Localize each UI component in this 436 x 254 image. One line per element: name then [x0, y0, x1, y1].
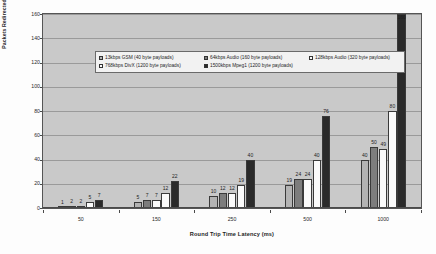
gridline	[43, 87, 421, 88]
x-tick-label: 150	[152, 216, 161, 222]
bar-value-label: 7	[146, 193, 149, 198]
gridline	[43, 135, 421, 136]
bar	[219, 193, 228, 208]
gridline	[43, 38, 421, 39]
bar-value-label: 160	[397, 15, 405, 20]
bar-value-label: 19	[238, 178, 244, 183]
x-tick-label: 50	[78, 216, 84, 222]
bar-value-label: 24	[305, 172, 311, 177]
x-tick-mark	[43, 210, 44, 213]
y-tick-label: 60	[18, 133, 40, 138]
bar-value-label: 2	[79, 199, 82, 204]
gridline	[43, 14, 421, 15]
bar-value-label: 7	[98, 193, 101, 198]
x-tick-mark	[119, 210, 120, 213]
bar	[237, 185, 246, 208]
bar-value-label: 50	[371, 140, 377, 145]
bar-value-label: 5	[89, 195, 92, 200]
bar	[322, 116, 331, 208]
bar	[228, 193, 237, 208]
bar	[246, 160, 255, 209]
legend-swatch-icon	[309, 56, 313, 60]
legend-swatch-icon	[204, 64, 208, 68]
bar-value-label: 12	[229, 186, 235, 191]
y-tick-label: 160	[18, 12, 40, 17]
x-tick-mark	[194, 210, 195, 213]
bar-value-label: 19	[286, 178, 292, 183]
x-axis-title: Round Trip Time Latency (ms)	[42, 231, 422, 237]
x-tick-mark	[421, 210, 422, 213]
bar	[361, 160, 370, 209]
plot-area: 1225757712221012121940192424407640504980…	[42, 13, 422, 209]
bar-value-label: 40	[314, 153, 320, 158]
bar-value-label: 22	[172, 174, 178, 179]
x-tick-label: 1000	[377, 216, 389, 222]
bar	[294, 179, 303, 208]
legend-item-2: 128kbps Audio (320 byte payloads)	[309, 56, 390, 61]
bar-value-label: 10	[211, 189, 217, 194]
legend-label-4: 1500kbps Mpeg1 (1200 byte payloads)	[210, 64, 293, 69]
bar-value-label: 24	[296, 172, 302, 177]
bar-value-label: 7	[155, 193, 158, 198]
legend-row: 13kbps GSM (40 byte payloads) 64kbps Aud…	[99, 54, 401, 62]
bar-value-label: 12	[220, 186, 226, 191]
legend-label-1: 64kbps Audio (160 byte payloads)	[210, 56, 282, 61]
bar	[161, 193, 170, 208]
legend-swatch-icon	[204, 56, 208, 60]
bar	[397, 14, 406, 208]
x-tick-mark	[345, 210, 346, 213]
chart-legend: 13kbps GSM (40 byte payloads) 64kbps Aud…	[95, 51, 405, 73]
x-tick-label: 250	[228, 216, 237, 222]
bar	[313, 160, 322, 209]
axis-baseline	[43, 207, 421, 208]
y-tick-label: 20	[18, 181, 40, 186]
bar	[303, 179, 312, 208]
x-axis-ticks: 501502505001000	[42, 210, 422, 226]
bar	[388, 111, 397, 208]
y-tick-label: 140	[18, 36, 40, 41]
plot-inner: 1225757712221012121940192424407640504980…	[43, 14, 421, 208]
bar-value-label: 76	[323, 109, 329, 114]
bar	[379, 149, 388, 208]
legend-item-3: 768kbps DivX (1200 byte payloads)	[99, 64, 204, 69]
legend-item-4: 1500kbps Mpeg1 (1200 byte payloads)	[204, 64, 293, 69]
legend-label-3: 768kbps DivX (1200 byte payloads)	[105, 64, 181, 69]
y-tick-label: 120	[18, 60, 40, 65]
bar	[171, 181, 180, 208]
y-axis-ticks: 020406080100120140160	[14, 13, 40, 209]
legend-label-2: 128kbps Audio (320 byte payloads)	[315, 56, 390, 61]
legend-row: 768kbps DivX (1200 byte payloads) 1500kb…	[99, 62, 401, 70]
legend-swatch-icon	[99, 56, 103, 60]
bar	[370, 147, 379, 208]
y-tick-label: 80	[18, 109, 40, 114]
gridline	[43, 111, 421, 112]
y-tick-label: 40	[18, 157, 40, 162]
legend-label-0: 13kbps GSM (40 byte payloads)	[105, 56, 174, 61]
legend-item-1: 64kbps Audio (160 byte payloads)	[204, 56, 309, 61]
bar-value-label: 49	[380, 142, 386, 147]
bar-value-label: 5	[137, 195, 140, 200]
y-tick-label: 100	[18, 84, 40, 89]
y-axis-title: Packets Redirected	[1, 0, 7, 72]
x-tick-mark	[270, 210, 271, 213]
bar-value-label: 1	[61, 200, 64, 205]
legend-swatch-icon	[99, 64, 103, 68]
bar-value-label: 40	[248, 153, 254, 158]
bar-value-label: 40	[362, 153, 368, 158]
legend-item-0: 13kbps GSM (40 byte payloads)	[99, 56, 204, 61]
bar	[285, 185, 294, 208]
bar-value-label: 2	[70, 199, 73, 204]
x-tick-label: 500	[303, 216, 312, 222]
bar-value-label: 80	[390, 104, 396, 109]
bar-value-label: 12	[163, 186, 169, 191]
chart-figure: Packets Redirected 020406080100120140160…	[0, 0, 436, 254]
y-tick-label: 0	[18, 206, 40, 211]
